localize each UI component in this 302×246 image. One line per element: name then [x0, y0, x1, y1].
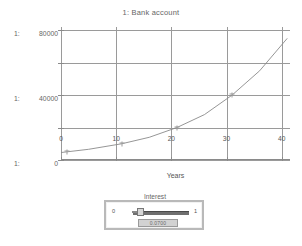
data-point-marker	[174, 125, 179, 130]
y-label-prefix: 1:	[14, 95, 20, 102]
y-label-prefix: 1:	[14, 30, 20, 37]
x-tick-label: 0	[59, 135, 63, 142]
x-tick	[171, 157, 172, 161]
x-tick	[227, 157, 228, 161]
y-label-prefix: 1:	[14, 160, 20, 167]
data-point-marker	[119, 141, 124, 146]
y-label-value: 40000	[28, 95, 58, 102]
footer-caption	[0, 240, 302, 246]
x-tick	[282, 157, 283, 161]
x-tick-label: 10	[113, 135, 120, 142]
plot-area	[61, 27, 290, 160]
data-point-marker	[230, 93, 235, 98]
interest-slider-panel[interactable]: 0 1 0.0700	[104, 200, 204, 230]
x-tick	[116, 157, 117, 161]
y-tick	[58, 160, 64, 161]
slider-label: Interest	[96, 193, 214, 200]
slider-handle[interactable]	[137, 208, 144, 216]
slider-min-label: 0	[112, 208, 115, 214]
y-tick	[58, 63, 64, 64]
gridline-horizontal	[61, 160, 290, 161]
chart-screen: 1: Bank account 010203040 1:800001:40000…	[0, 0, 302, 246]
x-tick-label: 40	[278, 135, 285, 142]
x-tick-label: 30	[223, 135, 230, 142]
y-label-value: 0	[28, 160, 58, 167]
y-label-value: 80000	[28, 30, 58, 37]
series-curve	[61, 27, 290, 160]
x-tick-label: 20	[168, 135, 175, 142]
slider-panel-inner: 0 1 0.0700	[107, 203, 201, 227]
slider-value-readout[interactable]: 0.0700	[138, 219, 178, 227]
x-axis-title: Years	[61, 172, 290, 179]
chart-title: 1: Bank account	[0, 8, 302, 17]
y-tick	[58, 128, 64, 129]
data-point-marker	[64, 149, 69, 154]
y-tick	[58, 95, 64, 96]
y-tick	[58, 30, 64, 31]
slider-max-label: 1	[194, 208, 197, 214]
slider-row[interactable]: 0 1	[111, 207, 197, 216]
